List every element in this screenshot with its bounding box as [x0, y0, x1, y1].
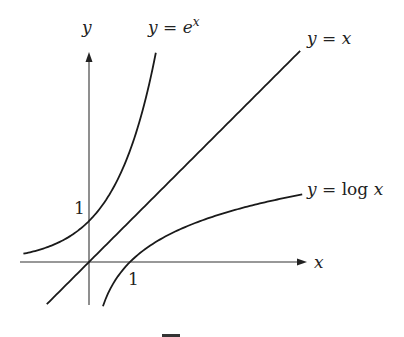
label-identity: y = x — [306, 28, 352, 48]
x-tick-label: 1 — [128, 269, 139, 289]
label-log: y = log x — [306, 179, 384, 199]
x-axis-label: x — [314, 252, 324, 272]
y-axis-arrow-icon — [86, 52, 93, 62]
x-axis-arrow-icon — [297, 259, 307, 266]
curve-log — [103, 194, 302, 306]
curve-exp — [23, 53, 155, 254]
label-exp: y = ex — [147, 15, 200, 37]
curve-identity — [47, 51, 300, 304]
y-tick-label: 1 — [74, 198, 85, 218]
y-axis-label: y — [81, 17, 92, 37]
